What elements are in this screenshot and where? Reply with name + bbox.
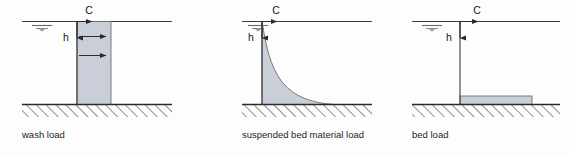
sediment-transport-figure: C h wash load C h bbox=[0, 0, 569, 156]
depth-label: h bbox=[248, 31, 254, 43]
panel-caption: suspended bed material load bbox=[242, 129, 364, 140]
concentration-label: C bbox=[85, 4, 93, 16]
concentration-label: C bbox=[473, 4, 481, 16]
depth-label: h bbox=[446, 31, 452, 43]
bed-hatch bbox=[412, 105, 560, 117]
concentration-profile-shape bbox=[460, 96, 532, 105]
depth-label: h bbox=[63, 31, 69, 43]
concentration-label: C bbox=[272, 4, 280, 16]
figure-canvas: C h wash load C h bbox=[0, 0, 569, 156]
bed-hatch bbox=[242, 105, 372, 117]
panel-caption: wash load bbox=[21, 129, 65, 140]
bed-hatch bbox=[22, 105, 172, 117]
panel-caption: bed load bbox=[412, 129, 448, 140]
concentration-profile-shape bbox=[77, 22, 111, 105]
